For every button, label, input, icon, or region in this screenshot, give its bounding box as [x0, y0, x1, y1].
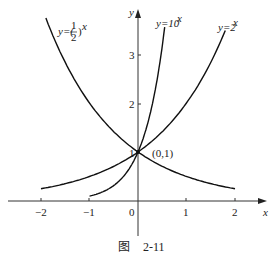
y-axis-arrow-icon — [135, 9, 141, 18]
x-tick-label: −1 — [83, 206, 95, 218]
caption-number: 2-11 — [143, 240, 165, 254]
svg-text:2: 2 — [71, 31, 77, 43]
exponential-chart: −2 −1 0 1 2 x 1 2 3 y (0,1) y=( 1 2 ) x … — [0, 0, 271, 256]
y-tick-label: 3 — [129, 49, 135, 61]
curve-ten-pow-x — [90, 27, 165, 196]
figure-2-11: −2 −1 0 1 2 x 1 2 3 y (0,1) y=( 1 2 ) x … — [0, 0, 271, 256]
svg-text:1: 1 — [71, 19, 77, 31]
svg-text:x: x — [81, 20, 87, 32]
x-tick-label: −2 — [35, 206, 47, 218]
svg-text:x: x — [232, 16, 238, 28]
curve-half-pow-x — [46, 18, 235, 189]
x-tick-label: 1 — [183, 206, 189, 218]
svg-text:x: x — [176, 12, 182, 24]
x-tick-label: 2 — [232, 206, 238, 218]
intersection-point — [136, 150, 140, 154]
x-axis-arrow-icon — [258, 198, 267, 204]
label-half-pow-x: y=( 1 2 ) x — [57, 19, 87, 43]
y-tick-label: 2 — [129, 98, 135, 110]
point-label: (0,1) — [152, 147, 173, 160]
label-ten-pow-x: y=10 x — [155, 12, 182, 29]
caption-fig: 图 — [118, 240, 130, 254]
label-two-pow-x: y=2 x — [217, 16, 238, 33]
y-axis-label: y — [128, 6, 134, 18]
origin-label: 0 — [129, 206, 135, 218]
x-axis-label: x — [262, 206, 268, 218]
